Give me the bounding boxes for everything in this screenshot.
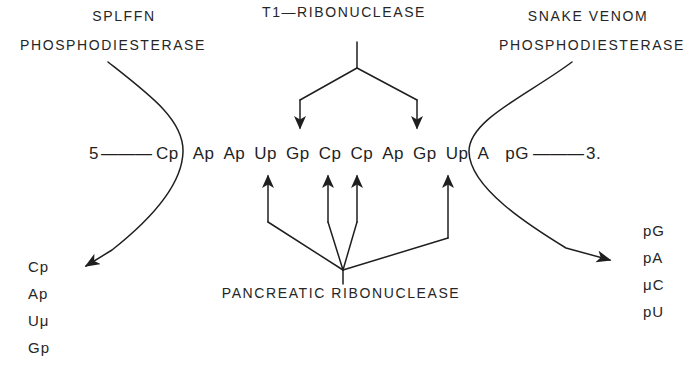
enzyme-cleavage-diagram: SPLFFN PHOSPHODIESTERASE T1—RIBONUCLEASE… — [0, 0, 694, 375]
diagram-lines-layer — [0, 0, 694, 375]
three-prime-dashes: ——— — [532, 144, 585, 163]
residue-4: Up — [253, 144, 278, 163]
pancreatic-branch-3 — [343, 222, 357, 270]
spleen-enzyme-label-line2: PHOSPHODIESTERASE — [20, 37, 206, 53]
spleen-product-4: Gp — [28, 339, 50, 356]
residue-2: Ap — [192, 144, 216, 163]
residue-5: Gp — [285, 144, 311, 163]
spleen-product-2: Ap — [28, 285, 48, 302]
spleen-enzyme-label-line1: SPLFFN — [92, 8, 155, 24]
residue-1: Cp — [155, 144, 180, 163]
residue-3: Ap — [223, 144, 247, 163]
spleen-product-1: Cp — [28, 258, 49, 275]
residue-7: Cp — [349, 144, 374, 163]
t1-branch-right — [357, 68, 417, 100]
venom-product-4: pU — [643, 303, 664, 320]
snake-venom-enzyme-label-line2: PHOSPHODIESTERASE — [499, 37, 685, 53]
three-prime-end: 3. — [585, 144, 602, 163]
residue-12: pG — [504, 144, 530, 163]
residue-11: A — [476, 144, 490, 163]
residue-10: Up — [445, 144, 470, 163]
rna-sequence-row: 5———CpApApUpGpCpCpApGpUpApG———3. — [88, 144, 602, 164]
five-prime-dashes: ——— — [100, 144, 153, 163]
pancreatic-branch-1 — [268, 222, 343, 270]
snake-venom-enzyme-label-line1: SNAKE VENOM — [528, 8, 648, 24]
pancreatic-branch-2 — [328, 222, 343, 270]
residue-6: Cp — [318, 144, 343, 163]
pancreatic-ribonuclease-label: PANCREATIC RIBONUCLEASE — [222, 285, 461, 301]
t1-branch-left — [300, 68, 357, 100]
residue-8: Ap — [381, 144, 405, 163]
five-prime-end: 5 — [88, 144, 100, 163]
spleen-curve-arrow — [86, 62, 183, 266]
pancreatic-branch-4 — [343, 238, 448, 270]
residue-9: Gp — [412, 144, 438, 163]
t1-ribonuclease-label: T1—RIBONUCLEASE — [262, 4, 426, 20]
venom-product-3: μC — [643, 276, 664, 293]
venom-product-1: pG — [643, 222, 665, 239]
venom-product-2: pA — [643, 249, 663, 266]
spleen-product-3: Uμ — [28, 312, 49, 329]
